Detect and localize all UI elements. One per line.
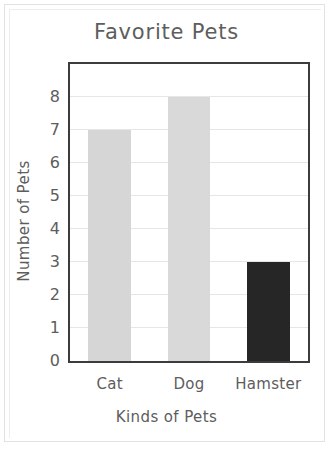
y-tick-label: 7: [36, 122, 60, 138]
y-tick-label: 5: [36, 188, 60, 204]
plot-inner: [70, 64, 308, 361]
y-tick-label: 3: [36, 254, 60, 270]
bar: [168, 97, 211, 361]
y-tick-label: 8: [36, 89, 60, 105]
y-tick-label: 4: [36, 221, 60, 237]
x-axis-title: Kinds of Pets: [0, 408, 333, 426]
x-tick-label: Cat: [70, 377, 149, 392]
x-tick-label: Dog: [149, 377, 228, 392]
bar: [88, 130, 131, 361]
y-tick-label: 2: [36, 287, 60, 303]
y-tick-label: 1: [36, 320, 60, 336]
plot-area: [68, 62, 310, 363]
bar: [247, 262, 290, 361]
y-tick-label: 0: [36, 353, 60, 369]
x-tick-label: Hamster: [229, 377, 308, 392]
chart-title: Favorite Pets: [0, 20, 333, 44]
chart-page: Favorite Pets Number of Pets Kinds of Pe…: [0, 0, 333, 450]
y-axis-title: Number of Pets: [15, 121, 33, 321]
y-tick-label: 6: [36, 155, 60, 171]
